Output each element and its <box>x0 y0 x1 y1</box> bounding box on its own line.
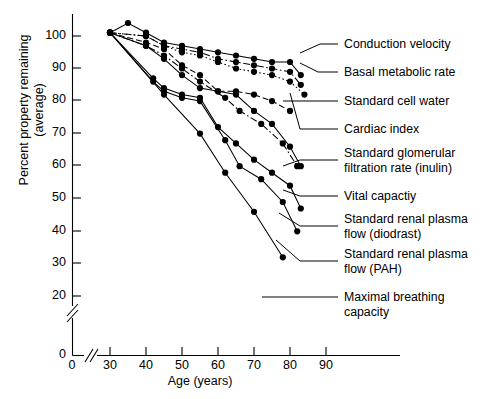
label-conduction-velocity: Conduction velocity <box>344 37 451 52</box>
data-point <box>251 157 257 163</box>
x-tick-label: 30 <box>90 358 130 372</box>
data-point <box>287 69 293 75</box>
data-point <box>287 108 293 114</box>
data-point <box>125 20 131 26</box>
y-tick-label: 100 <box>30 28 66 42</box>
data-point <box>222 170 228 176</box>
x-tick-label: 60 <box>198 358 238 372</box>
series-maximal-breathing-capacity <box>107 30 286 261</box>
data-point <box>197 98 203 104</box>
data-point <box>298 205 304 211</box>
label-maximal-breathing-line2: capacity <box>344 305 444 320</box>
label-glomerular-filtration-line2: filtration rate (inulin) <box>344 161 455 176</box>
x-tick-label: 40 <box>126 358 166 372</box>
data-point <box>179 95 185 101</box>
data-point <box>179 49 185 55</box>
x-tick-label: 70 <box>234 358 274 372</box>
data-point <box>161 56 167 62</box>
y-tick-label: 50 <box>30 190 66 204</box>
data-point <box>287 79 293 85</box>
label-standard-cell-water: Standard cell water <box>344 94 449 109</box>
physiological-decline-chart: Percent property remaining (average) Age… <box>0 0 489 399</box>
data-point <box>222 95 228 101</box>
data-point <box>294 228 300 234</box>
data-point <box>258 121 264 127</box>
x-tick-label: 80 <box>270 358 310 372</box>
x-axis-title: Age (years) <box>0 374 400 388</box>
data-point <box>251 209 257 215</box>
data-point <box>237 163 243 169</box>
data-point <box>197 131 203 137</box>
label-renal-diodrast-line2: flow (diodrast) <box>344 227 468 242</box>
label-renal-diodrast-line1: Standard renal plasma <box>344 212 468 227</box>
data-series-layer <box>107 20 308 261</box>
leader-glomerular-filtration <box>283 160 338 166</box>
label-renal-pah-line2: flow (PAH) <box>344 262 468 277</box>
x-tick-label: 0 <box>52 358 92 372</box>
data-point <box>233 52 239 58</box>
data-point <box>269 170 275 176</box>
data-point <box>280 140 286 146</box>
y-tick-marks <box>73 36 82 296</box>
data-point <box>107 30 113 36</box>
series-standard-renal-plasma-flow-diodrast <box>107 30 304 212</box>
data-point <box>233 92 239 98</box>
data-point <box>233 65 239 71</box>
label-glomerular-filtration-line1: Standard glomerular <box>344 146 455 161</box>
data-point <box>251 69 257 75</box>
y-tick-label: 80 <box>30 92 66 106</box>
leader-renal-diodrast <box>279 213 338 226</box>
data-point <box>161 46 167 52</box>
data-point <box>258 176 264 182</box>
label-maximal-breathing: Maximal breathing capacity <box>344 290 444 319</box>
x-tick-label: 50 <box>162 358 202 372</box>
data-point <box>143 33 149 39</box>
data-point <box>143 43 149 49</box>
data-point <box>298 72 304 78</box>
data-point <box>269 98 275 104</box>
data-point <box>179 72 185 78</box>
data-point <box>233 59 239 65</box>
label-glomerular-filtration: Standard glomerular filtration rate (inu… <box>344 146 455 175</box>
x-tick-label: 90 <box>306 358 346 372</box>
y-tick-label: 90 <box>30 60 66 74</box>
data-point <box>197 79 203 85</box>
y-tick-label: 70 <box>30 125 66 139</box>
data-point <box>301 92 307 98</box>
data-point <box>280 254 286 260</box>
data-point <box>215 88 221 94</box>
data-point <box>287 59 293 65</box>
label-maximal-breathing-line1: Maximal breathing <box>344 290 444 305</box>
data-point <box>269 121 275 127</box>
data-point <box>298 163 304 169</box>
leader-basal-metabolic-rate <box>300 63 338 72</box>
data-point <box>280 199 286 205</box>
data-point <box>215 49 221 55</box>
data-point <box>222 137 228 143</box>
data-point <box>269 72 275 78</box>
data-point <box>251 92 257 98</box>
data-point <box>179 65 185 71</box>
label-renal-pah-line1: Standard renal plasma <box>344 247 468 262</box>
label-cardiac-index: Cardiac index <box>344 122 419 137</box>
leader-cardiac-index <box>290 93 338 129</box>
y-tick-label: 60 <box>30 157 66 171</box>
leader-vital-capacity <box>283 190 338 196</box>
data-point <box>251 108 257 114</box>
data-point <box>233 140 239 146</box>
axis-break-marks <box>67 304 98 362</box>
y-tick-label: 20 <box>30 288 66 302</box>
data-point <box>298 82 304 88</box>
data-point <box>215 59 221 65</box>
data-point <box>269 65 275 71</box>
data-point <box>237 108 243 114</box>
data-point <box>197 72 203 78</box>
data-point <box>251 56 257 62</box>
y-tick-label: 30 <box>30 255 66 269</box>
data-point <box>197 52 203 58</box>
y-tick-label: 40 <box>30 223 66 237</box>
label-vital-capacity: Vital capactiy <box>344 189 416 204</box>
label-renal-pah: Standard renal plasma flow (PAH) <box>344 247 468 276</box>
label-basal-metabolic-rate: Basal metabolic rate <box>344 65 455 80</box>
series-basal-metabolic-rate <box>107 30 304 88</box>
